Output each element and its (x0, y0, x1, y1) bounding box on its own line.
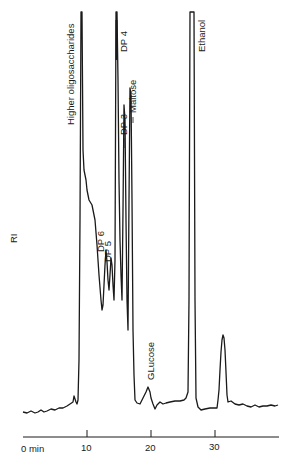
label-dp5: DP 5 (102, 241, 113, 262)
x-tick-label-10: 10 (81, 442, 92, 453)
label-dp3: DP 3 (118, 114, 129, 135)
y-axis-label: RI (8, 234, 19, 244)
x-tick-label-0: 0 min (21, 443, 44, 454)
label-ethanol: Ethanol (196, 20, 207, 52)
x-tick-label-30: 30 (209, 441, 220, 452)
chromatogram-chart: RI Higher oligosaccharides DP 6 DP 5 DP … (0, 0, 291, 462)
label-higher-oligosaccharides: Higher oligosaccharides (65, 23, 76, 125)
label-maltose: Maltose (127, 80, 138, 113)
label-dp4: DP 4 (118, 31, 129, 52)
x-tick-label-20: 20 (145, 442, 156, 453)
label-glucose: GLucose (145, 342, 156, 380)
